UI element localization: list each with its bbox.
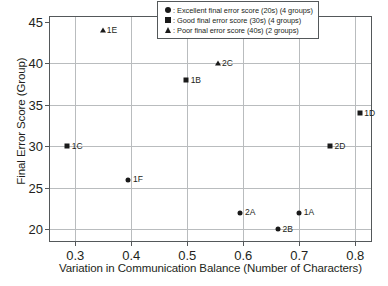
triangle-marker-icon xyxy=(215,61,221,66)
y-axis-title: Final Error Score (Group) xyxy=(15,16,27,226)
x-tick-label: 0.8 xyxy=(346,248,364,263)
data-point-label: 1F xyxy=(133,174,143,184)
circle-marker-icon xyxy=(276,227,281,232)
legend-item: : Poor final error score (40s) (2 groups… xyxy=(162,25,313,35)
x-tick-label: 0.5 xyxy=(178,248,196,263)
x-tick-mark xyxy=(243,241,244,246)
y-tick-mark xyxy=(45,188,50,189)
legend-label: : Poor final error score (40s) (2 groups… xyxy=(173,26,299,35)
x-tick-mark xyxy=(75,241,76,246)
square-marker-icon xyxy=(328,144,333,149)
x-tick-mark xyxy=(131,241,132,246)
data-point-label: 2B xyxy=(283,224,293,234)
x-tick-mark xyxy=(299,241,300,246)
triangle-marker-icon xyxy=(165,27,171,33)
data-point-label: 1B xyxy=(191,75,201,85)
legend-label: : Good final error score (30s) (4 groups… xyxy=(173,16,301,25)
y-tick-mark xyxy=(45,146,50,147)
x-axis-title: Variation in Communication Balance (Numb… xyxy=(49,262,372,274)
legend-symbol xyxy=(162,7,173,13)
x-tick-mark xyxy=(187,241,188,246)
data-point-label: 2A xyxy=(245,208,255,218)
data-point-label: 2C xyxy=(222,58,233,68)
data-point-label: 2D xyxy=(335,141,346,151)
x-tick-label: 0.4 xyxy=(122,248,140,263)
y-tick-mark xyxy=(45,229,50,230)
data-point: 1A xyxy=(297,210,302,215)
legend-symbol xyxy=(162,27,173,33)
x-tick-label: 0.3 xyxy=(66,248,84,263)
data-point: 1C xyxy=(65,144,70,149)
data-points-layer: 1F2A1A2B1C1B2D1D1E2C xyxy=(50,17,371,241)
data-point-label: 1D xyxy=(364,108,375,118)
square-marker-icon xyxy=(165,17,171,23)
data-point-label: 1A xyxy=(304,208,314,218)
circle-marker-icon xyxy=(297,210,302,215)
circle-marker-icon xyxy=(165,7,171,13)
data-point: 1D xyxy=(357,111,362,116)
y-tick-mark xyxy=(45,63,50,64)
y-tick-mark xyxy=(45,22,50,23)
y-tick-label: 25 xyxy=(29,180,43,195)
y-tick-mark xyxy=(45,105,50,106)
data-point: 1F xyxy=(126,177,131,182)
circle-marker-icon xyxy=(126,177,131,182)
y-tick-label: 45 xyxy=(29,14,43,29)
x-tick-label: 0.7 xyxy=(290,248,308,263)
data-point: 2D xyxy=(328,144,333,149)
square-marker-icon xyxy=(184,78,189,83)
y-tick-label: 30 xyxy=(29,139,43,154)
data-point: 1E xyxy=(100,28,106,33)
data-point: 2C xyxy=(215,61,221,66)
y-tick-label: 35 xyxy=(29,97,43,112)
circle-marker-icon xyxy=(238,210,243,215)
square-marker-icon xyxy=(357,111,362,116)
legend-item: : Good final error score (30s) (4 groups… xyxy=(162,15,313,25)
data-point-label: 1E xyxy=(107,25,117,35)
square-marker-icon xyxy=(65,144,70,149)
legend-item: : Excellent final error score (20s) (4 g… xyxy=(162,5,313,15)
legend-symbol xyxy=(162,17,173,23)
legend-label: : Excellent final error score (20s) (4 g… xyxy=(173,6,313,15)
x-tick-label: 0.6 xyxy=(234,248,252,263)
data-point-label: 1C xyxy=(72,141,83,151)
plot-area: 1F2A1A2B1C1B2D1D1E2C 0.30.40.50.60.70.82… xyxy=(49,16,372,242)
data-point: 2A xyxy=(238,210,243,215)
y-tick-label: 20 xyxy=(29,222,43,237)
data-point: 2B xyxy=(276,227,281,232)
scatter-chart-figure: Final Error Score (Group) Variation in C… xyxy=(0,0,388,286)
chart-legend: : Excellent final error score (20s) (4 g… xyxy=(157,1,319,39)
triangle-marker-icon xyxy=(100,28,106,33)
x-tick-mark xyxy=(355,241,356,246)
data-point: 1B xyxy=(184,78,189,83)
y-tick-label: 40 xyxy=(29,56,43,71)
